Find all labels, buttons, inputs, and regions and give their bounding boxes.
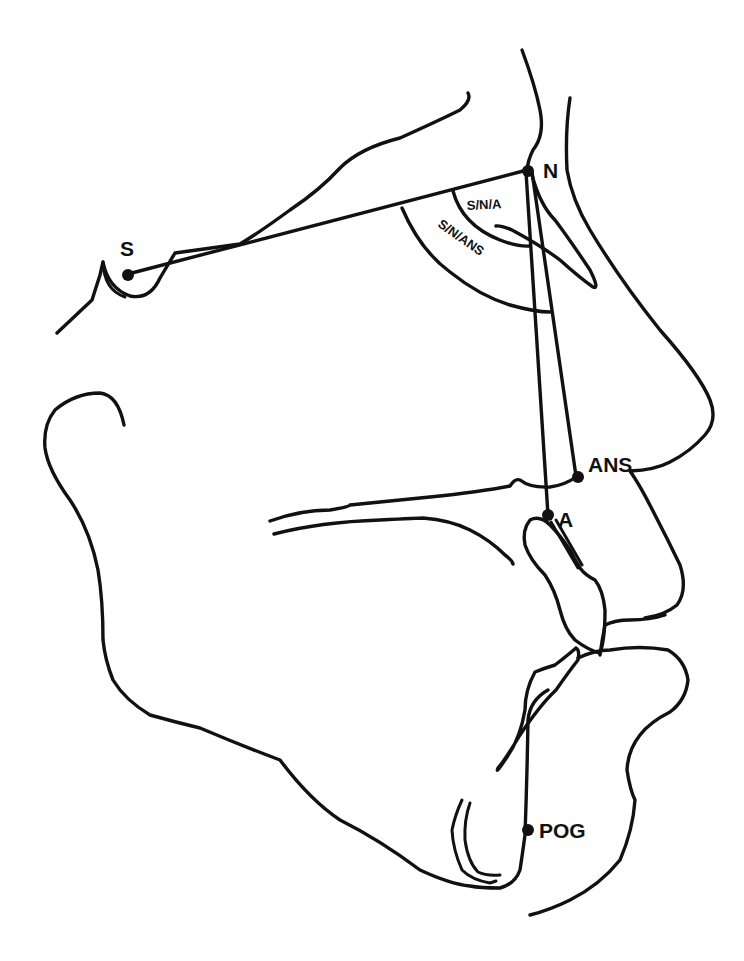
lower-incisor [497, 648, 578, 770]
mandible-ramus [45, 393, 548, 888]
soft-tissue-chin [530, 648, 688, 916]
landmark-pog-point[interactable] [522, 824, 534, 836]
landmark-ans-point[interactable] [572, 471, 584, 483]
landmark-a-point[interactable] [542, 509, 554, 521]
frontal-bone [522, 50, 541, 170]
angle-s-n-a-label: S/N/A [466, 196, 502, 213]
landmark-s-label: S [120, 237, 134, 260]
landmark-ans-label: ANS [588, 453, 632, 476]
landmark-a-label: A [558, 508, 573, 531]
line-n-a [526, 172, 548, 515]
landmark-n-point[interactable] [522, 165, 534, 177]
palate-lower [274, 518, 513, 564]
cranial-base-outline [57, 93, 469, 333]
landmark-pog-label: POG [539, 819, 586, 842]
landmark-s-point[interactable] [122, 269, 134, 281]
angle-s-n-ans-label: S/N/ANS [435, 216, 487, 259]
symphysis-inner [452, 800, 496, 883]
soft-tissue-nose [566, 98, 713, 618]
symphysis-inner-2 [465, 803, 500, 875]
palate-upper [270, 477, 576, 521]
landmark-n-label: N [543, 159, 558, 182]
upper-incisor [524, 518, 605, 653]
line-s-n [128, 170, 527, 274]
cephalometric-diagram: S N ANS A POG S/N/A S/N/ANS [0, 0, 744, 961]
